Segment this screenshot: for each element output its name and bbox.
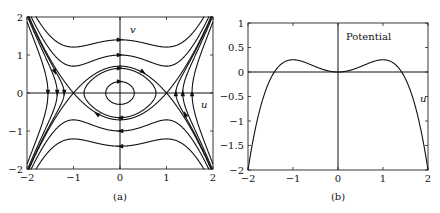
potential-title: Potential (346, 31, 391, 42)
side-orbit (28, 17, 64, 94)
tick-label: −1 (8, 126, 23, 137)
tick-label: 0 (335, 173, 341, 184)
tick-label: 1 (238, 18, 244, 29)
tick-label: −1 (286, 173, 301, 184)
tick-label: 0.5 (228, 42, 244, 53)
tick-label: 1 (17, 50, 23, 61)
v-axis-label: v (130, 24, 136, 35)
side-orbit (183, 94, 213, 170)
phase-portrait-plot: −2−1012−2−1012 v u (a) (8, 12, 216, 203)
tick-label: 0 (238, 67, 244, 78)
tick-label: 0 (17, 88, 23, 99)
tick-label: 1 (380, 173, 386, 184)
side-orbit (27, 94, 57, 170)
caption-b: (b) (331, 191, 345, 202)
u-axis-label-b: u (420, 93, 426, 104)
side-orbit (183, 17, 213, 93)
plot-b-ticks: −2−101210.50−0.5−1−1.5−2 (220, 18, 431, 185)
tick-label: 2 (210, 172, 216, 183)
tick-label: −1 (66, 172, 81, 183)
potential-plot: −2−101210.50−0.5−1−1.5−2 Potential u (b) (220, 18, 431, 203)
side-orbit (27, 17, 57, 93)
caption-a: (a) (113, 191, 127, 202)
plot-a-ticks: −2−1012−2−1012 (8, 12, 216, 184)
tick-label: −2 (229, 165, 244, 176)
tick-label: 0 (117, 172, 123, 183)
side-orbit (28, 93, 64, 170)
figure: −2−1012−2−1012 v u (a) −2−101210.50−0.5−… (0, 0, 440, 213)
side-orbit (176, 17, 212, 94)
tick-label: 1 (163, 172, 169, 183)
tick-label: −1 (229, 116, 244, 127)
tick-label: 2 (425, 173, 431, 184)
tick-label: −1.5 (220, 140, 244, 151)
tick-label: −0.5 (220, 91, 244, 102)
tick-label: 2 (17, 12, 23, 23)
tick-label: −2 (8, 164, 23, 175)
u-axis-label: u (201, 99, 207, 110)
